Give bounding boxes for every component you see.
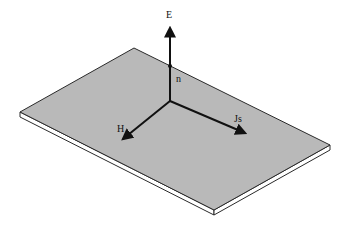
e-label: E: [166, 9, 172, 20]
js-label: Js: [234, 113, 242, 124]
normal-vector-dot: [168, 64, 172, 68]
diagram-canvas: E n H Js: [0, 0, 343, 228]
h-label: H: [117, 123, 124, 134]
conducting-plate: [20, 48, 330, 210]
n-label: n: [176, 73, 181, 84]
